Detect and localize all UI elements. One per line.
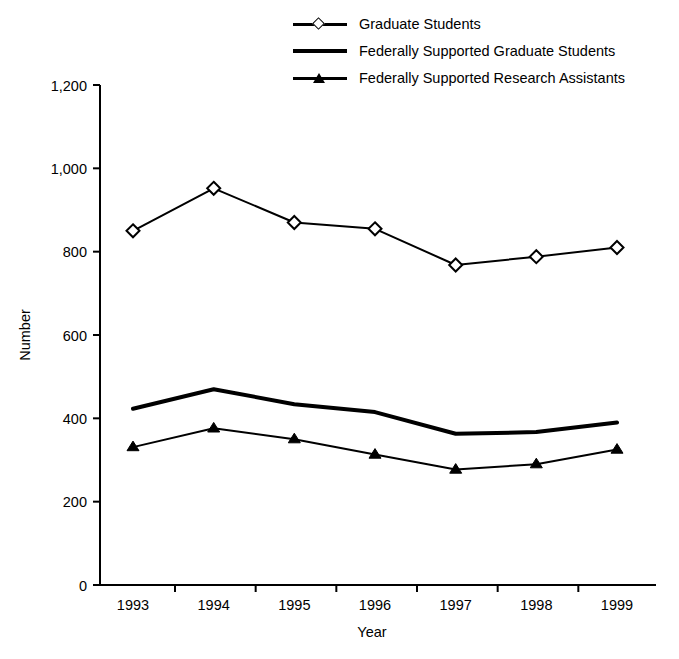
data-point-marker	[127, 224, 140, 237]
data-point-marker	[449, 259, 462, 272]
y-tick-label: 1,200	[51, 78, 87, 94]
series-federally-supported-graduate-students	[133, 389, 617, 434]
y-tick-label: 400	[63, 411, 87, 427]
x-tick-label: 1994	[198, 597, 230, 613]
x-tick-label: 1996	[359, 597, 391, 613]
line-chart: Graduate Students Federally Supported Gr…	[0, 0, 679, 659]
data-point-marker	[208, 422, 220, 432]
x-axis-title: Year	[357, 624, 386, 640]
data-point-marker	[207, 182, 220, 195]
data-point-marker	[530, 250, 543, 263]
x-tick-label: 1993	[117, 597, 149, 613]
data-point-marker	[369, 222, 382, 235]
data-point-marker	[611, 241, 624, 254]
x-axis: 1993199419951996199719981999	[100, 585, 656, 613]
x-tick-label: 1997	[440, 597, 472, 613]
plot-area: 02004006008001,0001,200 1993199419951996…	[0, 0, 679, 659]
data-series-group	[127, 182, 624, 473]
y-axis-title: Number	[17, 309, 33, 361]
y-tick-label: 1,000	[51, 161, 87, 177]
data-point-marker	[288, 216, 301, 229]
x-tick-label: 1998	[520, 597, 552, 613]
y-tick-label: 0	[79, 578, 87, 594]
x-tick-label: 1995	[278, 597, 310, 613]
y-tick-label: 600	[63, 328, 87, 344]
y-axis: 02004006008001,0001,200	[51, 78, 100, 594]
x-tick-label: 1999	[601, 597, 633, 613]
series-line	[133, 389, 617, 434]
y-tick-label: 200	[63, 494, 87, 510]
y-tick-label: 800	[63, 244, 87, 260]
data-point-marker	[611, 444, 623, 454]
series-graduate-students	[127, 182, 624, 272]
